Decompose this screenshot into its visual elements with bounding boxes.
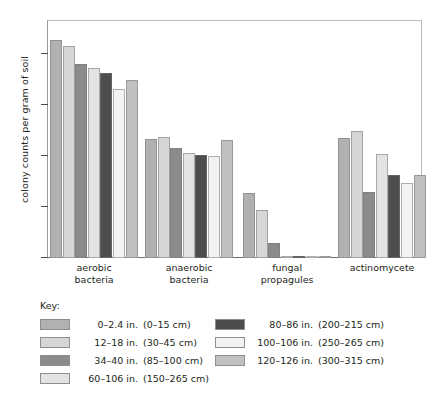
legend-depth-inches: 120–126 in. <box>249 355 313 366</box>
legend-entry: 0–2.4 in.(0–15 cm) <box>40 318 220 331</box>
bar <box>221 140 233 258</box>
bar <box>145 139 157 258</box>
legend: Key: 0–2.4 in.(0–15 cm)12–18 in.(30–45 c… <box>40 300 429 409</box>
soil-colony-count-figure: colony counts per gram of soil 107106105… <box>0 0 429 409</box>
legend-depth-centimeters: (85–100 cm) <box>143 355 203 366</box>
bar <box>208 156 220 258</box>
bar <box>306 256 318 258</box>
bar <box>170 148 182 258</box>
plot-region: colony counts per gram of soil 107106105… <box>0 0 429 268</box>
bar <box>100 73 112 258</box>
legend-depth-inches: 0–2.4 in. <box>74 319 138 330</box>
bar <box>50 40 62 258</box>
bar <box>319 256 331 258</box>
bar <box>243 193 255 258</box>
x-axis-group-label-line: actinomycete <box>337 262 427 274</box>
x-axis-group-label-line: bacteria <box>144 274 234 286</box>
bar <box>256 210 268 258</box>
x-axis-group-label: anaerobicbacteria <box>144 262 234 285</box>
x-axis-group-label-line: fungal <box>242 262 332 274</box>
x-axis-group-label: actinomycete <box>337 262 427 274</box>
x-axis-group-label-line: anaerobic <box>144 262 234 274</box>
legend-depth-inches: 34–40 in. <box>74 355 138 366</box>
legend-swatch <box>40 319 70 330</box>
legend-entry: 60–106 in.(150–265 cm) <box>40 372 220 385</box>
bar <box>293 256 305 258</box>
legend-entry: 100–106 in.(250–265 cm) <box>215 336 395 349</box>
legend-swatch <box>40 373 70 384</box>
bar <box>281 256 293 258</box>
bar <box>268 243 280 258</box>
legend-entry: 80–86 in.(200–215 cm) <box>215 318 395 331</box>
legend-depth-centimeters: (300–315 cm) <box>318 355 384 366</box>
legend-swatch <box>40 355 70 366</box>
legend-swatch <box>215 355 245 366</box>
legend-entry: 12–18 in.(30–45 cm) <box>40 336 220 349</box>
legend-depth-centimeters: (30–45 cm) <box>143 337 197 348</box>
x-axis-group-label: aerobicbacteria <box>49 262 139 285</box>
bar <box>113 89 125 258</box>
legend-swatch <box>215 319 245 330</box>
bar-series-layer <box>0 0 429 268</box>
x-axis-group-label-line: aerobic <box>49 262 139 274</box>
legend-depth-inches: 60–106 in. <box>74 373 138 384</box>
bar <box>376 154 388 258</box>
bar <box>195 155 207 258</box>
bar <box>401 183 413 258</box>
legend-depth-centimeters: (250–265 cm) <box>318 337 384 348</box>
legend-swatch <box>40 337 70 348</box>
legend-depth-inches: 100–106 in. <box>249 337 313 348</box>
x-axis-group-label-line: bacteria <box>49 274 139 286</box>
bar <box>351 131 363 258</box>
bar <box>158 137 170 258</box>
bar <box>363 192 375 258</box>
legend-title: Key: <box>40 300 60 311</box>
legend-swatch <box>215 337 245 348</box>
legend-depth-centimeters: (0–15 cm) <box>143 319 191 330</box>
x-axis-group-label: fungalpropagules <box>242 262 332 285</box>
bar <box>75 64 87 258</box>
legend-depth-centimeters: (200–215 cm) <box>318 319 384 330</box>
bar <box>63 46 75 258</box>
bar <box>88 68 100 258</box>
bar <box>126 80 138 258</box>
bar <box>414 175 426 258</box>
legend-entry: 120–126 in.(300–315 cm) <box>215 354 395 367</box>
legend-depth-inches: 12–18 in. <box>74 337 138 348</box>
legend-depth-inches: 80–86 in. <box>249 319 313 330</box>
legend-entry: 34–40 in.(85–100 cm) <box>40 354 220 367</box>
x-axis-group-label-line: propagules <box>242 274 332 286</box>
legend-depth-centimeters: (150–265 cm) <box>143 373 209 384</box>
bar <box>388 175 400 258</box>
bar <box>183 153 195 258</box>
bar <box>338 138 350 258</box>
